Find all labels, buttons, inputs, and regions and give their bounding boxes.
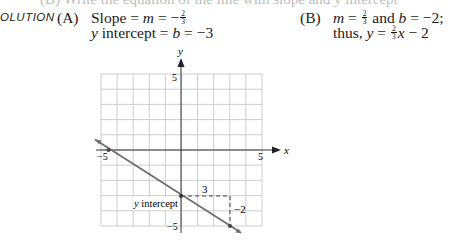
y-axis-arrow-icon: [178, 58, 185, 67]
rise-label: −2: [234, 203, 246, 215]
x-tick-neg5: −5: [97, 151, 108, 162]
x-intercept-point: [107, 148, 111, 152]
run-label: 3: [202, 183, 208, 195]
y-intercept-label: y intercept: [133, 198, 178, 209]
point-3-neg5: [228, 224, 232, 228]
x-tick-pos5: 5: [258, 151, 263, 162]
y-tick-pos5: 5: [172, 72, 177, 83]
y-intercept-point: [179, 194, 183, 198]
x-axis-label: x: [283, 144, 289, 156]
y-tick-neg5: −5: [167, 221, 178, 232]
y-axis-label: y: [177, 45, 183, 57]
x-axis-arrow-icon: [272, 147, 281, 154]
coordinate-graph: x y −5 5 5 −5 3 −2 y intercept: [0, 0, 455, 243]
